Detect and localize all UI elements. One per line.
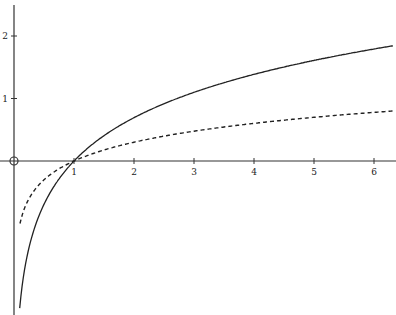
y-tick-label: 1 [2,94,8,104]
log-curves-plot: 123456 12 [0,0,396,315]
x-tick-label: 6 [371,167,377,177]
x-tick-label: 4 [251,167,257,177]
y-tick-label: 2 [2,31,8,41]
x-tick-label: 1 [71,167,77,177]
axes [0,5,396,315]
x-tick-label: 3 [191,167,197,177]
x-tick-label: 2 [131,167,137,177]
y-ticks: 12 [2,31,17,104]
x-tick-label: 5 [311,167,317,177]
